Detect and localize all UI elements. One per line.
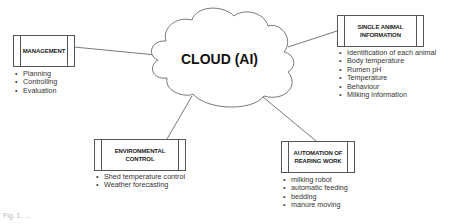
environmental-title: ENVIRONMENTAL CONTROL xyxy=(115,147,166,163)
environmental-box: ENVIRONMENTAL CONTROL xyxy=(94,139,186,171)
environmental-list: Shed temperature control Weather forecas… xyxy=(96,173,185,190)
environmental-title-line: ENVIRONMENTAL xyxy=(115,147,166,155)
automation-title-line: AUTOMATION OF xyxy=(294,149,343,157)
connector-management xyxy=(74,47,156,55)
connector-environmental xyxy=(167,96,192,139)
environmental-title-line: CONTROL xyxy=(115,155,166,163)
single-animal-title: SINGLE ANIMAL INFORMATION xyxy=(358,23,404,39)
management-box: MANAGEMENT xyxy=(13,35,75,67)
cloud-label: CLOUD (AI) xyxy=(181,51,258,67)
single-animal-title-line: INFORMATION xyxy=(358,31,404,39)
list-item: Weather forecasting xyxy=(96,181,185,189)
management-list: Planning Controlling Evaluation xyxy=(15,70,57,95)
list-item: Evaluation xyxy=(15,87,57,95)
automation-title: AUTOMATION OF REARING WORK xyxy=(294,149,343,165)
single-animal-list: Identification of each animal Body tempe… xyxy=(339,49,436,99)
management-title-line: MANAGEMENT xyxy=(23,47,66,55)
single-animal-box: SINGLE ANIMAL INFORMATION xyxy=(337,15,424,47)
connector-single-animal xyxy=(288,31,337,47)
single-animal-title-line: SINGLE ANIMAL xyxy=(358,23,404,31)
connector-automation xyxy=(263,97,316,141)
list-item: Milking information xyxy=(339,91,436,99)
list-item: manure moving xyxy=(283,201,348,209)
figure-caption: Fig. 1. ... xyxy=(3,212,30,219)
management-title: MANAGEMENT xyxy=(23,47,66,55)
automation-title-line: REARING WORK xyxy=(294,157,343,165)
automation-box: AUTOMATION OF REARING WORK xyxy=(281,141,355,173)
automation-list: milking robot automatic feeding bedding … xyxy=(283,176,348,210)
